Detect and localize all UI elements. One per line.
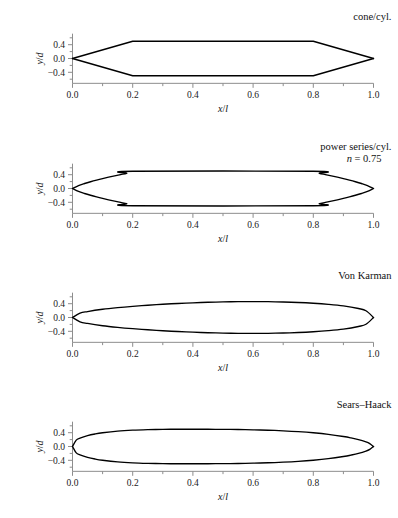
x-tick-label: 0.6	[247, 220, 259, 230]
panel-power-series-cyl: 0.40.0−0.40.00.20.40.60.81.0x/ly/dpower …	[0, 136, 398, 266]
y-tick-label: 0.0	[53, 313, 65, 323]
x-tick-label: 0.6	[247, 478, 259, 488]
x-axis-title: x/l	[217, 233, 228, 244]
y-axis-title: y/d	[34, 51, 45, 65]
y-tick-label: 0.4	[53, 40, 65, 50]
profile-curve-upper-surface	[73, 429, 374, 446]
y-tick-label: −0.4	[48, 198, 65, 208]
x-tick-label: 0.2	[127, 90, 139, 100]
panel-sears-haack: 0.40.0−0.40.00.20.40.60.81.0x/ly/dSears–…	[0, 394, 398, 518]
y-axis-title: y/d	[34, 439, 45, 453]
x-tick-label: 1.0	[368, 478, 380, 488]
y-tick-label: 0.0	[53, 54, 65, 64]
x-tick-label: 0.6	[247, 349, 259, 359]
x-tick-label: 1.0	[368, 349, 380, 359]
y-tick-label: −0.4	[48, 456, 65, 466]
x-tick-label: 0.4	[187, 90, 199, 100]
panel-von-karman: 0.40.0−0.40.00.20.40.60.81.0x/ly/dVon Ka…	[0, 265, 398, 395]
y-axis-title: y/d	[34, 310, 45, 324]
y-tick-label: 0.4	[53, 428, 65, 438]
x-tick-label: 0.4	[187, 478, 199, 488]
x-tick-label: 0.2	[127, 478, 139, 488]
y-tick-label: 0.0	[53, 442, 65, 452]
x-tick-label: 0.8	[307, 349, 319, 359]
plot-area-0: 0.40.0−0.40.00.20.40.60.81.0x/ly/dcone/c…	[0, 6, 398, 136]
x-tick-label: 0.8	[307, 90, 319, 100]
profile-curve-lower-surface	[73, 447, 374, 464]
plot-area-1: 0.40.0−0.40.00.20.40.60.81.0x/ly/dpower …	[0, 136, 398, 266]
x-tick-label: 0.0	[67, 90, 79, 100]
case-label: power series/cyl.	[320, 141, 391, 152]
x-tick-label: 0.0	[67, 478, 79, 488]
x-axis-title: x/l	[217, 491, 228, 502]
plot-area-2: 0.40.0−0.40.00.20.40.60.81.0x/ly/dVon Ka…	[0, 265, 398, 395]
x-axis-title: x/l	[217, 103, 228, 114]
case-label: Von Karman	[338, 270, 392, 281]
profile-curve-lower-surface	[73, 318, 374, 334]
x-tick-label: 0.0	[67, 220, 79, 230]
profile-curve-upper-surface	[73, 171, 374, 189]
profile-curve-lower-surface	[73, 189, 374, 207]
x-axis-title: x/l	[217, 362, 228, 373]
x-tick-label: 0.0	[67, 349, 79, 359]
plot-area-3: 0.40.0−0.40.00.20.40.60.81.0x/ly/dSears–…	[0, 394, 398, 518]
y-tick-label: 0.4	[53, 170, 65, 180]
x-tick-label: 0.8	[307, 220, 319, 230]
x-tick-label: 0.6	[247, 90, 259, 100]
x-tick-label: 0.4	[187, 220, 199, 230]
profile-curve-upper-surface	[73, 302, 374, 318]
x-tick-label: 0.2	[127, 220, 139, 230]
y-tick-label: −0.4	[48, 68, 65, 78]
x-tick-label: 0.2	[127, 349, 139, 359]
x-tick-label: 0.4	[187, 349, 199, 359]
y-tick-label: −0.4	[48, 327, 65, 337]
case-label: Sears–Haack	[337, 399, 393, 410]
y-tick-label: 0.0	[53, 184, 65, 194]
profile-curve-lower-surface	[73, 59, 374, 76]
x-tick-label: 0.8	[307, 478, 319, 488]
y-tick-label: 0.4	[53, 299, 65, 309]
panel-cone-cyl: 0.40.0−0.40.00.20.40.60.81.0x/ly/dcone/c…	[0, 6, 398, 136]
case-label: cone/cyl.	[353, 11, 391, 22]
x-tick-label: 1.0	[368, 220, 380, 230]
y-axis-title: y/d	[34, 181, 45, 195]
case-sublabel: n = 0.75	[347, 153, 382, 164]
profile-curve-upper-surface	[73, 41, 374, 58]
x-tick-label: 1.0	[368, 90, 380, 100]
